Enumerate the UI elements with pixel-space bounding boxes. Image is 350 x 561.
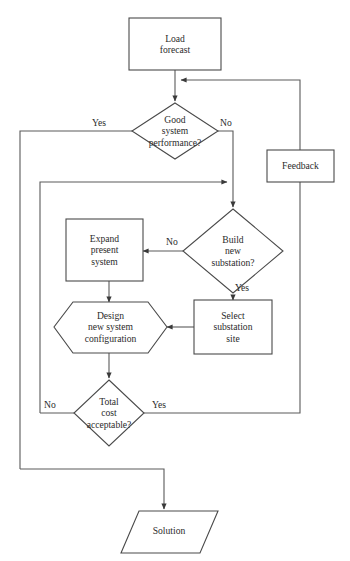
edge-goodperformance-no-to-buildsubstation: [217, 131, 233, 207]
node-build-new-substation[interactable]: [183, 209, 283, 293]
node-feedback[interactable]: [267, 150, 334, 182]
edge-totalcost-no-rail-to-buildsubstation: [40, 182, 227, 413]
node-solution[interactable]: [121, 511, 218, 553]
node-design-new-system-configuration[interactable]: [54, 302, 167, 353]
node-select-substation-site[interactable]: [194, 300, 272, 354]
edge-bottomrail-to-solution: [20, 469, 164, 509]
node-good-system-performance[interactable]: [132, 103, 218, 159]
node-expand-present-system[interactable]: [66, 219, 143, 281]
flowchart-graphics: [0, 0, 350, 561]
node-total-cost-acceptable[interactable]: [74, 380, 144, 446]
flowchart-canvas: Load forecast Good system performance? F…: [0, 0, 350, 561]
node-load-forecast[interactable]: [129, 18, 221, 70]
